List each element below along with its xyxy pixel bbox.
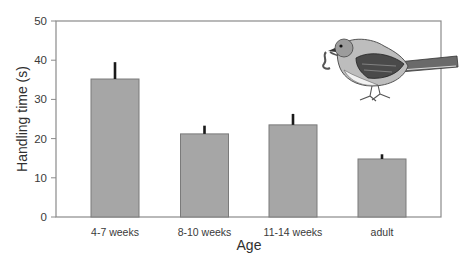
y-tick-label: 20: [34, 133, 47, 145]
bars: [91, 62, 406, 217]
y-tick-label: 40: [34, 54, 47, 66]
x-axis-title: Age: [237, 237, 262, 253]
bar-11-14-weeks: [269, 125, 317, 217]
bar-chart: 01020304050 4-7 weeks8-10 weeks11-14 wee…: [0, 0, 468, 270]
bird-illustration: [323, 39, 458, 101]
y-axis: 01020304050: [34, 15, 56, 223]
y-tick-label: 0: [41, 211, 47, 223]
y-tick-label: 50: [34, 15, 47, 27]
bar-adult: [358, 159, 406, 217]
bar-4-7-weeks: [91, 79, 139, 217]
x-tick-label: 8-10 weeks: [178, 226, 232, 238]
y-axis-title: Handling time (s): [14, 66, 30, 172]
x-tick-label: adult: [371, 226, 394, 238]
y-tick-label: 30: [34, 93, 47, 105]
x-tick-label: 4-7 weeks: [91, 226, 139, 238]
bar-8-10-weeks: [181, 134, 229, 217]
x-tick-label: 11-14 weeks: [264, 226, 323, 238]
y-tick-label: 10: [34, 172, 47, 184]
